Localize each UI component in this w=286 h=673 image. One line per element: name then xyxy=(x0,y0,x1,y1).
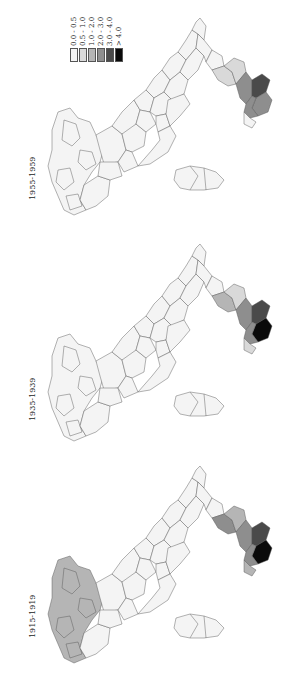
region-north-east xyxy=(98,162,122,180)
map-panel: 1915-1919 xyxy=(0,448,286,673)
map-panel: 1935-1939 xyxy=(0,226,286,451)
region-sardinia xyxy=(174,614,224,638)
region-sardinia xyxy=(174,166,224,190)
region-north-east xyxy=(98,610,122,628)
region-north-east xyxy=(98,388,122,406)
region-sardinia xyxy=(174,392,224,416)
italy-map xyxy=(0,226,286,451)
italy-map xyxy=(0,0,286,225)
map-panel: 1955-1959 xyxy=(0,0,286,225)
italy-map xyxy=(0,448,286,673)
